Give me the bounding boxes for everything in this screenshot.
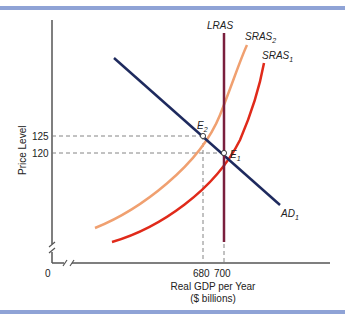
x-tick-0: 0 [45, 268, 51, 279]
x-axis-units: ($ billions) [190, 293, 236, 304]
y-axis [49, 20, 55, 263]
y-tick-120: 120 [32, 148, 49, 159]
x-tick-680: 680 [193, 268, 210, 279]
ad-as-chart: LRAS SRAS2 SRAS1 AD1 E2 E1 125 120 0 680… [0, 0, 345, 321]
x-tick-700: 700 [214, 268, 231, 279]
dashed-guides [52, 136, 224, 263]
y-axis-title: Price Level [17, 126, 28, 175]
sras2-label: SRAS2 [245, 31, 276, 44]
ad1-line [114, 58, 280, 205]
x-axis [52, 260, 330, 266]
e2-point [200, 133, 205, 138]
e1-point [221, 150, 226, 155]
lras-label: LRAS [207, 20, 233, 31]
e2-label: E2 [197, 120, 208, 133]
sras1-curve [112, 63, 264, 242]
e1-label: E1 [230, 149, 241, 162]
y-tick-125: 125 [32, 131, 49, 142]
x-axis-title: Real GDP per Year [171, 281, 257, 292]
sras1-label: SRAS1 [262, 50, 293, 63]
ad1-label: AD1 [280, 208, 299, 221]
